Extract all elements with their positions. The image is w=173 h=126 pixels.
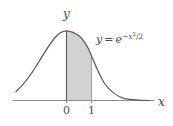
gaussian-curve-figure: y x 0 1 y=e−x2/2 [0,0,173,126]
plot-canvas [0,0,173,126]
curve-equation-annotation: y=e−x2/2 [96,33,143,45]
y-axis-label: y [63,8,70,20]
equation-equals-sign: = [102,33,115,46]
equation-exponent-divisor: /2 [136,32,143,41]
x-tick-label-1: 1 [88,105,95,116]
x-axis-label: x [158,96,165,108]
x-tick-label-0: 0 [63,105,70,116]
equation-exponent: −x2/2 [122,32,143,41]
shaded-area-region [67,31,92,101]
